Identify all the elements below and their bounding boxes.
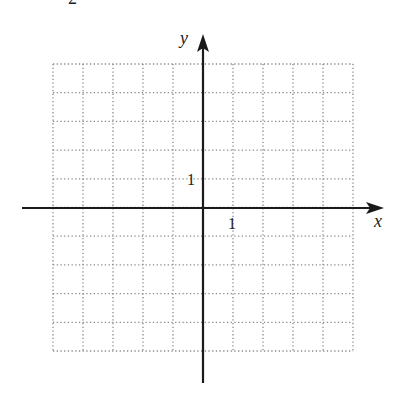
figure-number-partial: 2 [68, 0, 77, 8]
x-axis-label: x [373, 211, 382, 231]
y-unit-tick-label: 1 [187, 171, 195, 188]
x-unit-tick-label: 1 [228, 215, 236, 232]
coordinate-plane: 2 x y 1 1 [0, 0, 400, 400]
y-axis-label: y [178, 28, 188, 48]
